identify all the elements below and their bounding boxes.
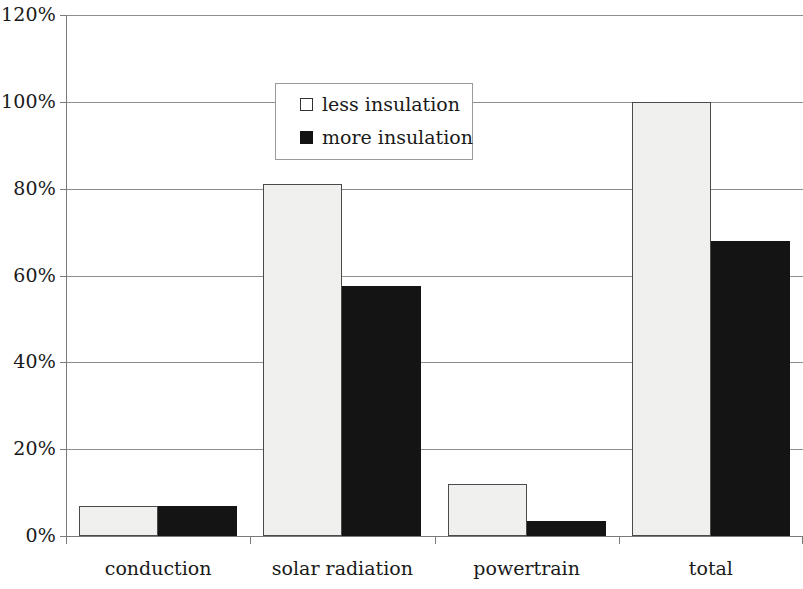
x-tick-mark: [66, 537, 67, 544]
bar-solar-radiation-more-insulation: [342, 286, 421, 536]
x-tick-mark: [435, 537, 436, 544]
chart-legend: less insulation more insulation: [275, 83, 473, 160]
bar-solar-radiation-less-insulation: [263, 184, 342, 536]
gridline: [66, 15, 803, 16]
bar-powertrain-less-insulation: [448, 484, 527, 536]
y-axis-line: [66, 15, 67, 537]
y-tick-label: 120%: [0, 5, 56, 24]
bar-conduction-more-insulation: [158, 506, 237, 536]
bar-conduction-less-insulation: [79, 506, 158, 536]
bar-total-less-insulation: [632, 102, 711, 536]
legend-label-more-insulation: more insulation: [322, 128, 473, 147]
bar-total-more-insulation: [711, 241, 790, 536]
x-axis-label-total: total: [619, 557, 803, 579]
y-tick-label: 100%: [0, 92, 56, 111]
x-axis-label-solar-radiation: solar radiation: [250, 557, 434, 579]
legend-label-less-insulation: less insulation: [322, 95, 460, 114]
x-tick-mark: [619, 537, 620, 544]
legend-item-less-insulation: less insulation: [300, 95, 460, 114]
legend-item-more-insulation: more insulation: [300, 128, 473, 147]
y-tick-label: 60%: [0, 266, 56, 285]
y-tick-label: 0%: [0, 526, 56, 545]
x-axis-label-conduction: conduction: [66, 557, 250, 579]
legend-swatch-more-insulation: [300, 131, 313, 144]
y-tick-label: 80%: [0, 179, 56, 198]
bar-powertrain-more-insulation: [527, 521, 606, 536]
x-tick-mark: [250, 537, 251, 544]
legend-swatch-less-insulation: [300, 98, 313, 111]
y-tick-label: 20%: [0, 439, 56, 458]
bar-chart: 0%20%40%60%80%100%120% conductionsolar r…: [0, 0, 803, 589]
y-tick-label: 40%: [0, 352, 56, 371]
x-axis-label-powertrain: powertrain: [435, 557, 619, 579]
